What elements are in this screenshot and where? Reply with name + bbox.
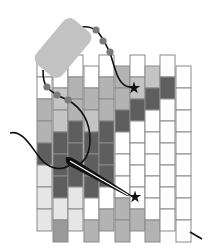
bead <box>115 154 130 176</box>
bead <box>37 187 52 209</box>
bead <box>99 77 114 99</box>
bead <box>37 165 52 187</box>
bead <box>130 187 145 209</box>
bead <box>145 110 160 132</box>
bead <box>130 143 145 165</box>
bead <box>145 132 160 154</box>
bead <box>160 121 175 143</box>
bead <box>160 165 175 187</box>
bead <box>99 187 114 209</box>
bead <box>145 198 160 220</box>
bead <box>53 220 68 242</box>
bead <box>176 220 191 242</box>
bead <box>84 88 99 110</box>
thread-bead <box>99 37 106 44</box>
thread-bead <box>64 96 71 103</box>
bead <box>130 121 145 143</box>
bead <box>160 99 175 121</box>
thread-bead <box>43 83 50 90</box>
bead <box>37 99 52 121</box>
bead <box>53 154 68 176</box>
bead <box>130 209 145 231</box>
bead <box>130 55 145 77</box>
bead <box>53 198 68 220</box>
bead <box>68 209 83 231</box>
bead <box>176 66 191 88</box>
bead <box>160 143 175 165</box>
bead <box>176 132 191 154</box>
bead <box>53 176 68 198</box>
thread-bead <box>92 26 99 33</box>
bead <box>99 121 114 143</box>
bead <box>68 121 83 143</box>
bead <box>99 143 114 165</box>
bead <box>84 220 99 242</box>
bead <box>99 209 114 231</box>
bead <box>145 220 160 242</box>
bead <box>68 187 83 209</box>
bead <box>115 88 130 110</box>
bead <box>99 99 114 121</box>
bead <box>145 66 160 88</box>
bead <box>145 88 160 110</box>
bead <box>176 88 191 110</box>
bead <box>145 176 160 198</box>
bead <box>68 77 83 99</box>
bead <box>160 187 175 209</box>
bead <box>145 154 160 176</box>
bead <box>115 132 130 154</box>
thread-bead <box>106 48 113 55</box>
bead <box>115 198 130 220</box>
bead <box>130 165 145 187</box>
bead-grid <box>37 55 191 242</box>
bead <box>115 110 130 132</box>
bead <box>37 121 52 143</box>
bead <box>53 110 68 132</box>
thread-bead <box>53 91 60 98</box>
bead <box>37 209 52 231</box>
bead <box>160 55 175 77</box>
bead <box>176 198 191 220</box>
bead <box>160 209 175 231</box>
bead <box>130 99 145 121</box>
bead <box>176 154 191 176</box>
thread-tail-right <box>190 232 202 239</box>
bead <box>160 77 175 99</box>
bead <box>84 132 99 154</box>
beading-diagram <box>0 0 216 251</box>
bead <box>84 198 99 220</box>
bead <box>115 220 130 242</box>
bead <box>53 132 68 154</box>
bead <box>176 110 191 132</box>
bead <box>176 176 191 198</box>
bead <box>84 66 99 88</box>
